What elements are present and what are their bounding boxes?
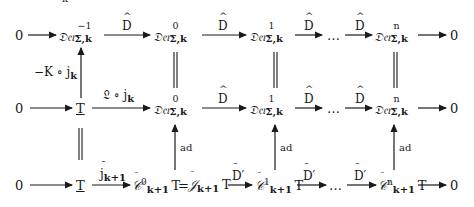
t-symbol: T xyxy=(222,177,231,192)
t-symbol: T xyxy=(418,178,427,193)
superscript: 0 xyxy=(173,94,179,104)
subscript: k+1 xyxy=(147,184,169,195)
row2-end-zero: 0 xyxy=(450,102,458,115)
subscript: Σ,k xyxy=(75,34,92,44)
row3-arrow-label-1: D′ xyxy=(232,170,244,182)
d-hat-label: D xyxy=(304,20,314,32)
subscript: Σ,k xyxy=(170,34,187,44)
d-prime-label: D′ xyxy=(354,170,366,182)
subscript: k+1 xyxy=(197,183,219,194)
subscript: Σ,k xyxy=(170,107,187,117)
row1-der-n: 𝔇𝔢𝔯nΣ,k xyxy=(374,25,413,49)
row3-first-arrow-label: jk+1 xyxy=(100,168,126,183)
ad-label-1: ad xyxy=(180,142,192,153)
superscript: 0 xyxy=(173,21,179,31)
c-symbol: 𝒞 xyxy=(378,179,387,192)
row1-arrow-label-4: D xyxy=(355,20,365,32)
row1-arrow-label-2: D xyxy=(218,20,228,32)
subscript: k xyxy=(70,70,77,81)
row3-c0: 𝒞0k+1 T xyxy=(132,178,180,195)
row3-arrow-label-2: D′ xyxy=(303,170,315,182)
d-hat-label: D xyxy=(218,20,228,32)
subscript: Σ,k xyxy=(391,107,408,117)
der-symbol: 𝔇𝔢𝔯 xyxy=(374,30,391,44)
d-prime-label: D′ xyxy=(232,170,244,182)
d-hat-label: D xyxy=(355,20,365,32)
j-tilde-label: j xyxy=(100,168,104,180)
der-symbol: 𝔇𝔢𝔯 xyxy=(249,30,266,44)
der-symbol: 𝔇𝔢𝔯 xyxy=(374,103,391,117)
left-vertical-label: −K ∘ jk xyxy=(34,65,77,81)
subscript: Σ,k xyxy=(266,34,283,44)
subscript: Σ,k xyxy=(266,107,283,117)
row1-arrow-label-1: D xyxy=(122,20,132,32)
superscript: −1 xyxy=(78,21,92,31)
row3-c1: 𝒞1k+1 T xyxy=(255,178,303,195)
subscript: k xyxy=(127,93,134,104)
c-symbol: 𝒞 xyxy=(132,179,141,192)
row2-ellipsis: … xyxy=(327,102,340,115)
row3-g: 𝒥k+1 T xyxy=(188,178,231,194)
row1-end-zero: 0 xyxy=(450,29,458,42)
der-symbol: 𝔇𝔢𝔯 xyxy=(58,30,75,44)
ad-label-2: ad xyxy=(280,142,292,153)
l-compose-j-label: 𝔏 ∘ j xyxy=(103,88,127,102)
superscript: 1 xyxy=(269,94,275,104)
d-prime-label: D′ xyxy=(303,170,315,182)
t-symbol: T xyxy=(295,178,304,193)
row2-der-1: 𝔇𝔢𝔯1Σ,k xyxy=(249,98,288,122)
row2-start-zero: 0 xyxy=(15,102,23,115)
row2-der-0: 𝔇𝔢𝔯0Σ,k xyxy=(153,98,192,122)
subscript: Σ,k xyxy=(391,34,408,44)
c-symbol: 𝒞 xyxy=(255,179,264,192)
row3-T: T xyxy=(76,179,85,192)
row1-der-1: 𝔇𝔢𝔯1Σ,k xyxy=(249,25,288,49)
subscript: k+1 xyxy=(270,184,292,195)
row1-der-minus1: 𝔇𝔢𝔯−1Σ,k xyxy=(58,25,97,49)
ad-label-3: ad xyxy=(399,142,411,153)
row1-der-0: 𝔇𝔢𝔯0Σ,k xyxy=(153,25,192,49)
row2-arrow-label-1: D xyxy=(218,93,228,105)
der-symbol: 𝔇𝔢𝔯 xyxy=(249,103,266,117)
row2-first-arrow-label: 𝔏 ∘ jk xyxy=(103,89,134,104)
superscript: 1 xyxy=(269,21,275,31)
top-fragment-label: k xyxy=(62,0,68,4)
row3-start-zero: 0 xyxy=(15,179,23,192)
row2-arrow-label-3: D xyxy=(355,93,365,105)
row2-T: T xyxy=(76,102,85,115)
neg-k-compose-j-label: −K ∘ j xyxy=(34,65,70,79)
g-symbol: 𝒥 xyxy=(188,178,197,191)
der-symbol: 𝔇𝔢𝔯 xyxy=(153,30,170,44)
row2-arrow-label-2: D xyxy=(304,93,314,105)
d-hat-label: D xyxy=(355,93,365,105)
superscript: n xyxy=(394,21,400,31)
commutative-diagram: k 0 𝔇𝔢𝔯−1Σ,k D 𝔇𝔢𝔯0Σ,k D 𝔇𝔢𝔯1Σ,k D … D 𝔇… xyxy=(0,0,474,207)
d-hat-label: D xyxy=(304,93,314,105)
row2-der-n: 𝔇𝔢𝔯nΣ,k xyxy=(374,98,413,122)
subscript: k+1 xyxy=(393,184,415,195)
row1-start-zero: 0 xyxy=(15,29,23,42)
der-symbol: 𝔇𝔢𝔯 xyxy=(153,103,170,117)
row3-arrow-label-3: D′ xyxy=(354,170,366,182)
superscript: n xyxy=(394,94,400,104)
row3-cn: 𝒞nk+1 T xyxy=(378,178,426,195)
row3-ellipsis: … xyxy=(329,179,342,192)
d-hat-label: D xyxy=(218,93,228,105)
d-hat-label: D xyxy=(122,20,132,32)
row3-end-zero: 0 xyxy=(450,179,458,192)
row1-arrow-label-3: D xyxy=(304,20,314,32)
row1-ellipsis: … xyxy=(327,29,340,42)
subscript: k+1 xyxy=(104,172,126,183)
